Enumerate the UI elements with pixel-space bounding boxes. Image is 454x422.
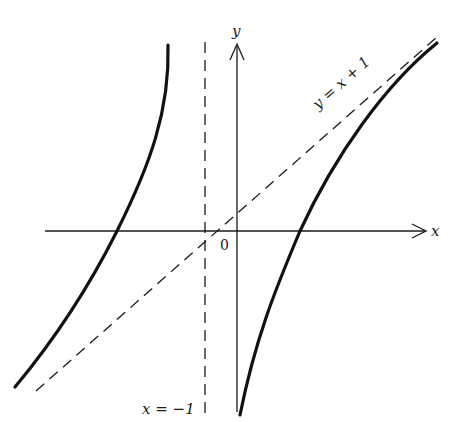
curve-left-branch bbox=[15, 45, 168, 387]
oblique-asymptote-label: y = x + 1 bbox=[308, 53, 374, 114]
curve-right-branch bbox=[240, 43, 437, 415]
vertical-asymptote-label: x = −1 bbox=[142, 400, 195, 418]
y-axis-label: y bbox=[231, 22, 241, 40]
x-axis-label: x bbox=[431, 222, 440, 240]
x-axis bbox=[45, 224, 426, 238]
y-axis bbox=[230, 44, 244, 412]
function-graph: x y 0 x = −1 y = x + 1 bbox=[0, 0, 454, 422]
origin-label: 0 bbox=[220, 237, 229, 253]
